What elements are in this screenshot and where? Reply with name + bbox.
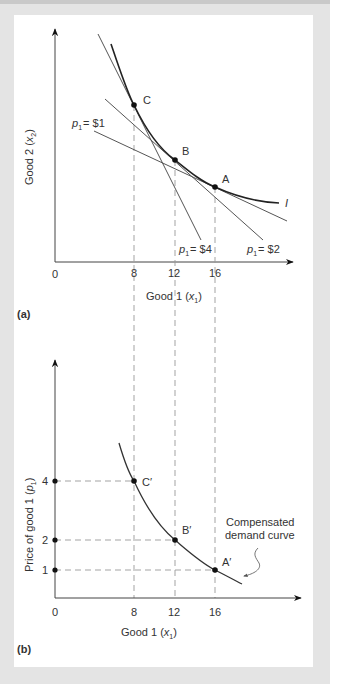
panel-b-xtick-8: 8	[131, 606, 137, 618]
annotation-line-1: Compensated	[226, 516, 295, 528]
panel-a-xtick-12: 12	[168, 267, 180, 279]
figure-svg: C B A I p1= $1 p1= $4 p1= $2 0 8 12 16 G…	[0, 0, 343, 691]
panel-b-xlabel: Good 1 (x1)	[121, 626, 177, 640]
point-c-prime	[131, 478, 137, 484]
projection-lines	[134, 105, 215, 598]
panel-a: C B A I p1= $1 p1= $4 p1= $2 0 8 12 16 G…	[17, 29, 293, 598]
panel-b-ylabel: Price of good 1 (p1)	[23, 478, 37, 572]
panel-b-xtick-0: 0	[52, 606, 58, 618]
label-p1-2: p1= $2	[246, 243, 280, 257]
panel-a-xtick-0: 0	[52, 268, 58, 280]
label-p1-1: p1= $1	[71, 117, 105, 131]
budget-line-p1-2	[105, 99, 263, 240]
point-a	[212, 184, 218, 190]
point-c	[131, 102, 137, 108]
panel-b-xtick-12: 12	[168, 606, 180, 618]
panel-b: C′ B′ A′ 4 2 1 0 8 12 16 Good 1 (x1) Pri…	[17, 360, 301, 655]
point-a-prime	[212, 567, 218, 573]
panel-b-ytick-2: 2	[42, 534, 48, 546]
y-point-2	[52, 537, 57, 542]
point-b	[172, 157, 178, 163]
panel-a-xtick-16: 16	[209, 267, 221, 279]
label-b-prime: B′	[182, 524, 191, 536]
panel-b-ytick-4: 4	[42, 475, 48, 487]
y-point-1	[52, 567, 57, 572]
budget-line-p1-1	[94, 131, 287, 221]
panel-a-label: (a)	[17, 308, 31, 320]
panel-b-ytick-1: 1	[42, 564, 48, 576]
y-point-4	[52, 478, 57, 483]
label-p1-4: p1= $4	[178, 243, 212, 257]
panel-a-xlabel: Good 1 (x1)	[146, 290, 202, 304]
budget-line-p1-4	[98, 34, 201, 240]
annotation-squiggle-arrow	[244, 548, 260, 576]
label-c: C	[143, 94, 151, 106]
panel-a-ylabel: Good 2 (x2)	[23, 129, 37, 185]
panel-b-label: (b)	[17, 643, 31, 655]
label-indifference-i: I	[285, 197, 288, 209]
label-b: B	[182, 145, 189, 157]
panel-a-xtick-8: 8	[131, 267, 137, 279]
label-a-prime: A′	[222, 556, 231, 568]
point-b-prime	[172, 537, 178, 543]
annotation-line-2: demand curve	[225, 529, 295, 541]
label-c-prime: C′	[142, 476, 152, 488]
panel-b-xtick-16: 16	[209, 606, 221, 618]
label-a: A	[222, 173, 230, 185]
